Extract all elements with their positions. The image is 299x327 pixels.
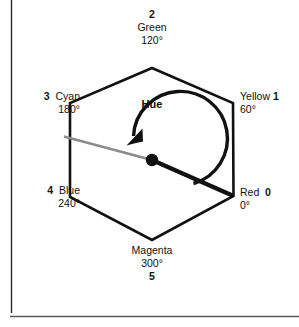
vertex-angle-red: 0°: [240, 199, 298, 212]
vertex-label-yellow: Yellow 1 60°: [240, 90, 298, 116]
vertex-index-magenta: 5: [112, 270, 192, 283]
vertex-angle-yellow: 60°: [240, 103, 298, 116]
vertex-angle-green: 120°: [112, 34, 192, 47]
black-hue-ray: [152, 160, 234, 196]
vertex-name-blue: Blue: [59, 184, 80, 196]
vertex-blue-top-row: 4 Blue: [10, 184, 80, 197]
vertex-index-red: 0: [265, 186, 271, 198]
vertex-label-green: 2 Green 120°: [112, 8, 192, 47]
vertex-yellow-top-row: Yellow 1: [240, 90, 298, 103]
vertex-name-cyan: Cyan: [55, 90, 80, 102]
vertex-angle-cyan: 180°: [10, 103, 80, 116]
vertex-index-green: 2: [112, 8, 192, 21]
vertex-angle-blue: 240°: [10, 197, 80, 210]
vertex-name-red: Red: [240, 186, 259, 198]
vertex-red-top-row: Red 0: [240, 186, 298, 199]
center-point-dot: [146, 154, 158, 166]
vertex-label-magenta: Magenta 300° 5: [112, 244, 192, 283]
vertex-index-yellow: 1: [273, 90, 279, 102]
hue-hexagon-figure: 2 Green 120° 3 Cyan 180° Yellow 1 60° 4 …: [0, 0, 299, 327]
vertex-name-green: Green: [112, 21, 192, 34]
vertex-label-blue: 4 Blue 240°: [10, 184, 80, 210]
vertex-name-magenta: Magenta: [112, 244, 192, 257]
vertex-cyan-top-row: 3 Cyan: [10, 90, 80, 103]
vertex-index-cyan: 3: [44, 90, 50, 102]
vertex-index-blue: 4: [47, 184, 53, 196]
vertex-label-red: Red 0 0°: [240, 186, 298, 212]
vertex-angle-magenta: 300°: [112, 257, 192, 270]
hue-annotation-label: Hue: [122, 98, 182, 111]
vertex-label-cyan: 3 Cyan 180°: [10, 90, 80, 116]
vertex-name-yellow: Yellow: [240, 90, 270, 102]
